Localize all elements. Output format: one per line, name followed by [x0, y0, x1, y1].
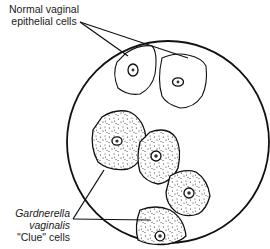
label-normal-line1: Normal vaginal [2, 3, 86, 15]
leader-line-clue-1 [73, 170, 104, 219]
label-clue-line3: "Clue" cells [4, 231, 70, 243]
leader-line-normal-1 [80, 22, 128, 56]
label-normal-epithelial-cells: Normal vaginal epithelial cells [2, 3, 86, 27]
clue-cell-3 [166, 171, 210, 216]
label-normal-line2: epithelial cells [2, 15, 86, 27]
label-clue-line2: vaginalis [4, 219, 70, 231]
label-clue-line1: Gardnerella [4, 207, 70, 219]
normal-cell-2 [160, 54, 207, 108]
label-clue-cells: Gardnerella vaginalis "Clue" cells [4, 207, 70, 243]
